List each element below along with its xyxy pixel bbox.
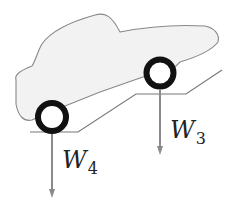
force-arrows-group: [49, 90, 163, 198]
force-label-w3: W3: [170, 118, 206, 147]
force-subscript-w4: 4: [88, 159, 98, 178]
arrowhead-icon: [49, 189, 55, 198]
front-wheel-icon: [147, 60, 174, 87]
car-on-ramp-diagram: [0, 0, 231, 203]
rear-wheel-icon: [38, 103, 66, 131]
arrowhead-icon: [157, 146, 163, 155]
force-arrow-w4: [49, 134, 55, 198]
force-symbol-w3: W: [170, 116, 195, 144]
force-arrow-w3: [157, 90, 163, 155]
force-label-w4: W4: [62, 148, 98, 177]
force-symbol-w4: W: [62, 146, 87, 174]
force-subscript-w3: 3: [196, 129, 206, 148]
